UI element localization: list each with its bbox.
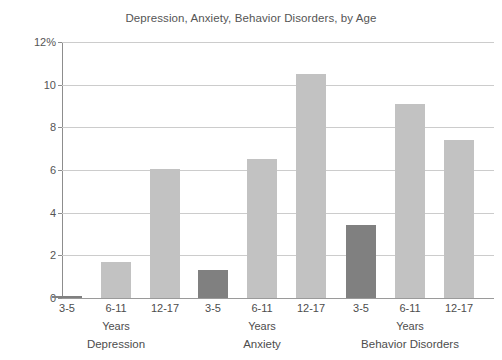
y-axis-tick-label: 4 [50,207,56,219]
bar [395,104,425,298]
bar [346,225,376,298]
bar [52,296,82,298]
x-axis-category-label: 12-17 [151,302,179,314]
gridline [62,85,494,86]
x-axis-category-label: 6-11 [105,302,126,314]
bar [101,262,131,298]
y-axis-tick-label: 10 [44,79,56,91]
x-axis-category-label: 12-17 [445,302,473,314]
x-axis-category-label: 6-11 [251,302,272,314]
x-axis-line [62,298,494,299]
y-axis-tick-label: 6 [50,164,56,176]
x-axis-unit-label: Years [102,320,130,332]
x-axis-group-label: Anxiety [243,338,281,350]
gridline [62,42,494,43]
x-axis-unit-label: Years [396,320,424,332]
bar [444,140,474,298]
x-axis-category-label: 3-5 [59,302,75,314]
x-axis-unit-label: Years [248,320,276,332]
chart-title: Depression, Anxiety, Behavior Disorders,… [0,12,502,24]
bar [150,169,180,298]
plot-area [62,42,494,298]
x-axis-category-label: 12-17 [297,302,325,314]
gridline [62,170,494,171]
x-axis-category-label: 6-11 [399,302,420,314]
y-axis-tick-label: 12% [34,36,56,48]
bar [247,159,277,298]
x-axis-category-label: 3-5 [353,302,369,314]
bar [198,270,228,298]
bar [296,74,326,298]
y-axis-tick-label: 2 [50,249,56,261]
bar-chart: Depression, Anxiety, Behavior Disorders,… [0,0,502,360]
y-axis-tick-label: 8 [50,121,56,133]
x-axis-category-label: 3-5 [205,302,221,314]
gridline [62,213,494,214]
gridline [62,255,494,256]
x-axis-group-label: Depression [87,338,145,350]
x-axis-group-label: Behavior Disorders [361,338,459,350]
gridline [62,127,494,128]
y-axis-tick-label: 0 [50,292,56,304]
